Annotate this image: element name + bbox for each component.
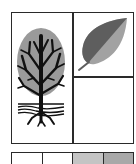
- tree-with-roots-icon: [14, 26, 70, 130]
- strip-cell-4: [103, 153, 134, 164]
- empty-panel: [74, 78, 133, 143]
- leaf-icon: [77, 16, 131, 72]
- bottom-strip: [11, 152, 134, 164]
- strip-cell-3: [72, 153, 103, 164]
- strip-cell-2: [42, 153, 73, 164]
- strip-cell-1: [12, 153, 42, 164]
